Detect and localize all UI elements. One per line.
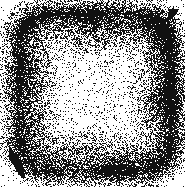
scan-figure: Black and white dithered scan of a round…	[0, 0, 185, 187]
dithered-scan-image	[0, 0, 185, 187]
